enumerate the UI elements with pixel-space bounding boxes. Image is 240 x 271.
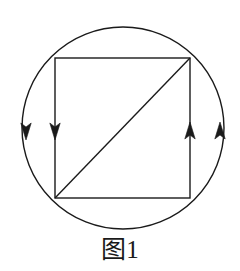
figure-container: 图1 [0, 0, 240, 271]
square-diagonal [55, 58, 190, 198]
figure-caption: 图1 [0, 234, 240, 265]
geometry-diagram [0, 0, 240, 271]
